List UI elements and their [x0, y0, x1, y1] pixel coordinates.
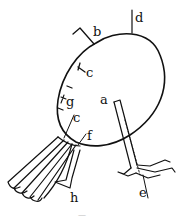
tick-g1 [67, 86, 72, 88]
label-c-lower: c [73, 110, 80, 125]
bird-diagram: b d c g a c f e h — [0, 0, 192, 220]
label-e: d [135, 10, 143, 25]
label-a: a [100, 92, 108, 107]
label-h: h [70, 190, 79, 205]
caption-mark: — [78, 210, 86, 219]
tick-c1 [78, 63, 85, 72]
label-d: e [139, 185, 147, 200]
pointer-b [73, 28, 94, 44]
label-c-upper: c [86, 65, 93, 80]
label-f: f [87, 128, 93, 143]
label-g: g [66, 94, 74, 109]
label-b: b [93, 24, 101, 39]
tick-g3 [58, 108, 63, 110]
body-outline [57, 34, 164, 146]
leg [114, 100, 175, 198]
